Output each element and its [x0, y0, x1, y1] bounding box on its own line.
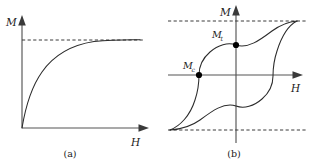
panel-b-m-axis-label: M — [219, 6, 231, 18]
panel-b-coercivity-label-subscript: c — [192, 66, 196, 73]
panel-b-remanence-label-subscript: t — [221, 35, 224, 42]
panel-b-coercivity-marker-dot — [196, 72, 202, 78]
panel-b-caption: (b) — [227, 148, 241, 159]
panel-b-remanence-marker-dot — [233, 42, 239, 48]
panel-b-h-axis-arrowhead — [293, 71, 304, 79]
panel-b-h-axis-label: H — [290, 82, 301, 94]
figure-root: M H (a) M t M c M H (b) — [0, 0, 312, 167]
panel-b-hysteresis-loop: M t M c M H (b) — [0, 0, 312, 167]
panel-b-m-axis-arrowhead — [232, 5, 240, 16]
